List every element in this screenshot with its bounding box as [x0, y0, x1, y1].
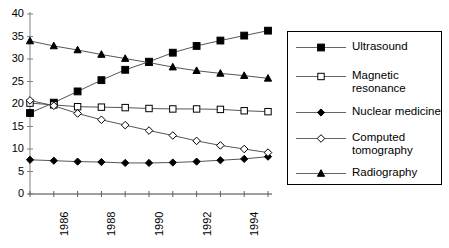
marker-radiography [26, 37, 33, 44]
marker-magnetic-resonance [265, 108, 271, 114]
legend-label: Computed tomography [352, 131, 413, 157]
x-axis-tick-label: 1988 [106, 212, 117, 236]
marker-nuclear-medicine [50, 157, 57, 164]
legend-item-magnetic-resonance[interactable]: Magnetic resonance [288, 69, 441, 95]
y-axis-tick-label: 25 [2, 76, 24, 87]
y-axis-tick-label: 40 [2, 8, 24, 19]
series-magnetic-resonance [27, 100, 271, 115]
series-line-ultrasound [30, 31, 268, 113]
series-nuclear-medicine [26, 153, 271, 167]
legend-marker-filled-triangle-icon [294, 167, 348, 180]
y-axis-tick-label: 5 [2, 166, 24, 177]
marker-computed-tomography [145, 127, 153, 135]
marker-magnetic-resonance [122, 104, 128, 110]
marker-nuclear-medicine [169, 159, 176, 166]
marker-ultrasound [265, 27, 272, 34]
marker-magnetic-resonance [170, 106, 176, 112]
legend-marker-filled-square-icon [294, 41, 348, 54]
marker-ultrasound [241, 32, 248, 39]
x-axis-tick-label: 1986 [59, 212, 70, 236]
marker-nuclear-medicine [98, 158, 105, 165]
marker-legend [317, 135, 325, 143]
marker-computed-tomography [240, 145, 248, 153]
marker-nuclear-medicine [193, 158, 200, 165]
legend-sample-canvas [294, 41, 348, 54]
marker-computed-tomography [169, 132, 177, 140]
y-axis-tick-label: 20 [2, 98, 24, 109]
marker-magnetic-resonance [217, 106, 223, 112]
marker-ultrasound [122, 66, 129, 73]
marker-computed-tomography [98, 116, 106, 124]
marker-ultrasound [169, 49, 176, 56]
legend-item-computed-tomography[interactable]: Computed tomography [288, 131, 441, 157]
legend-label: Magnetic resonance [352, 69, 406, 95]
marker-legend [318, 73, 324, 79]
legend-item-radiography[interactable]: Radiography [288, 166, 441, 180]
y-axis-tick-label: 30 [2, 53, 24, 64]
y-axis-tick-label: 35 [2, 31, 24, 42]
legend-item-ultrasound[interactable]: Ultrasound [288, 40, 441, 54]
legend-sample-canvas [294, 167, 348, 180]
y-axis-tick-label: 15 [2, 121, 24, 132]
legend-marker-open-square-icon [294, 70, 348, 83]
marker-computed-tomography [121, 121, 129, 129]
marker-nuclear-medicine [145, 159, 152, 166]
marker-magnetic-resonance [74, 104, 80, 110]
y-axis-tick-label: 0 [2, 188, 24, 199]
marker-nuclear-medicine [26, 156, 33, 163]
marker-nuclear-medicine [217, 157, 224, 164]
series-radiography [26, 37, 271, 81]
axis-group [27, 12, 272, 197]
marker-nuclear-medicine [74, 158, 81, 165]
chart-figure: 0510152025303540 19861988199019921994 Ul… [0, 0, 449, 248]
marker-nuclear-medicine [122, 159, 129, 166]
chart-legend: UltrasoundMagnetic resonanceNuclear medi… [287, 31, 442, 185]
legend-marker-open-diamond-icon [294, 132, 348, 145]
marker-computed-tomography [193, 137, 201, 145]
marker-legend [318, 44, 325, 51]
marker-magnetic-resonance [241, 108, 247, 114]
marker-magnetic-resonance [193, 106, 199, 112]
legend-sample-canvas [294, 70, 348, 83]
x-axis-tick-label: 1992 [202, 212, 213, 236]
legend-sample-canvas [294, 106, 348, 119]
marker-ultrasound [27, 110, 34, 117]
marker-magnetic-resonance [146, 105, 152, 111]
marker-ultrasound [74, 88, 81, 95]
y-axis-tick-label: 10 [2, 143, 24, 154]
marker-magnetic-resonance [98, 104, 104, 110]
marker-ultrasound [217, 37, 224, 44]
legend-label: Nuclear medicine [352, 105, 441, 118]
marker-computed-tomography [217, 142, 225, 150]
marker-nuclear-medicine [241, 155, 248, 162]
legend-item-nuclear-medicine[interactable]: Nuclear medicine [288, 105, 441, 119]
marker-ultrasound [193, 43, 200, 50]
marker-computed-tomography [74, 110, 82, 118]
x-axis-tick-label: 1994 [249, 212, 260, 236]
x-axis-tick-label: 1990 [154, 212, 165, 236]
legend-label: Radiography [352, 166, 417, 179]
legend-marker-filled-diamond-icon [294, 106, 348, 119]
marker-ultrasound [98, 77, 105, 84]
marker-legend [317, 109, 324, 116]
series-ultrasound [27, 27, 272, 116]
legend-sample-canvas [294, 132, 348, 145]
legend-label: Ultrasound [352, 40, 408, 53]
